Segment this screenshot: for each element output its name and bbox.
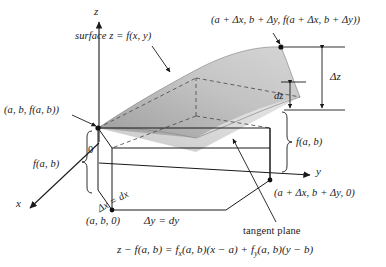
surface-patch [98, 47, 300, 138]
f-ab-left-brace [82, 131, 92, 193]
base-point-label: (a, b, f(a, b)) [4, 105, 59, 116]
y-axis [99, 163, 310, 175]
near-corner-label: (a, b, 0) [86, 216, 120, 227]
delta-y-label: Δy = dy [144, 215, 179, 226]
delta-x-brace [96, 193, 100, 197]
far-corner-label: (a + Δx, b + Δy, 0) [274, 188, 355, 199]
y-axis-label: y [316, 166, 321, 177]
f-ab-right-brace [282, 112, 292, 172]
eq-lhs: z − f(a, b) = f [117, 243, 179, 255]
tangent-plane-equation: z − f(a, b) = fx(a, b)(x − a) + fy(a, b)… [117, 244, 313, 258]
tangent-plane-diagram: z y x 0 surface z = f(x, y) (a + Δx, b +… [0, 0, 386, 267]
delta-z-label: Δz [330, 71, 341, 82]
tangent-plane-label: tangent plane [243, 226, 301, 237]
z-axis-label: z [94, 6, 98, 17]
origin-label: 0 [88, 145, 93, 156]
eq-mid: (a, b)(x − a) + f [182, 243, 254, 255]
surface-label: surface z = f(x, y) [75, 31, 151, 42]
x-axis-label: x [16, 198, 21, 209]
dz-label: dz [274, 91, 284, 102]
eq-end: (a, b)(y − b) [258, 243, 314, 255]
f-ab-left-label: f(a, b) [33, 159, 59, 170]
top-point-label: (a + Δx, b + Δy, f(a + Δx, b + Δy)) [211, 15, 360, 26]
diagram-canvas [0, 0, 386, 267]
f-ab-right-label: f(a, b) [296, 137, 322, 148]
